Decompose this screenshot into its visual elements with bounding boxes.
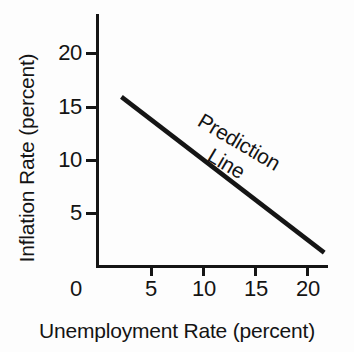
phillips-curve-chart: 20 15 10 5 0 5 10 15 20 Prediction Line … xyxy=(0,0,354,352)
x-axis-title: Unemployment Rate (percent) xyxy=(0,318,354,344)
plot-area: 20 15 10 5 0 5 10 15 20 Prediction Line xyxy=(0,0,354,352)
y-axis-title: Inflation Rate (percent) xyxy=(12,28,42,288)
series-layer xyxy=(0,0,354,352)
